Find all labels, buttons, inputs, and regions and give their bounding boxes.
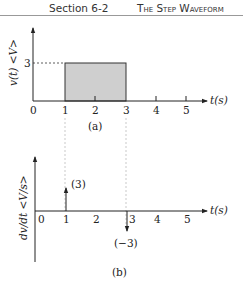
svg-text:5: 5 [183,104,190,116]
caption-a: (a) [88,120,102,132]
chart-b: (3) (−3) 0 1 2 3 4 5 t(s) dv/dt <V/s> (b… [17,157,228,278]
svg-text:4: 4 [154,213,161,225]
impulse-label-pos: (3) [71,178,86,190]
y-tick-3: 3 [24,57,31,69]
chart-a: 3 0 1 2 3 4 5 t(s) v(t) <V> (a) [7,28,228,132]
x-axis-label: t(s) [210,94,228,106]
impulse-label-neg: (−3) [114,237,138,249]
svg-text:4: 4 [153,104,160,116]
svg-text:2: 2 [93,213,100,225]
svg-text:1: 1 [62,104,69,116]
svg-text:3: 3 [123,104,130,116]
y-axis-label: dv/dt <V/s> [17,175,29,240]
svg-text:1: 1 [63,213,70,225]
pulse-region [65,63,126,101]
y-axis-label: v(t) <V> [7,39,19,86]
figure: 3 0 1 2 3 4 5 t(s) v(t) <V> (a) (3) (−3)… [0,0,243,290]
x-axis-label: t(s) [210,204,228,216]
svg-text:2: 2 [92,104,99,116]
caption-b: (b) [112,266,127,278]
svg-text:0: 0 [38,213,45,225]
svg-text:3: 3 [129,213,136,225]
svg-text:0: 0 [30,104,37,116]
svg-text:5: 5 [184,213,191,225]
